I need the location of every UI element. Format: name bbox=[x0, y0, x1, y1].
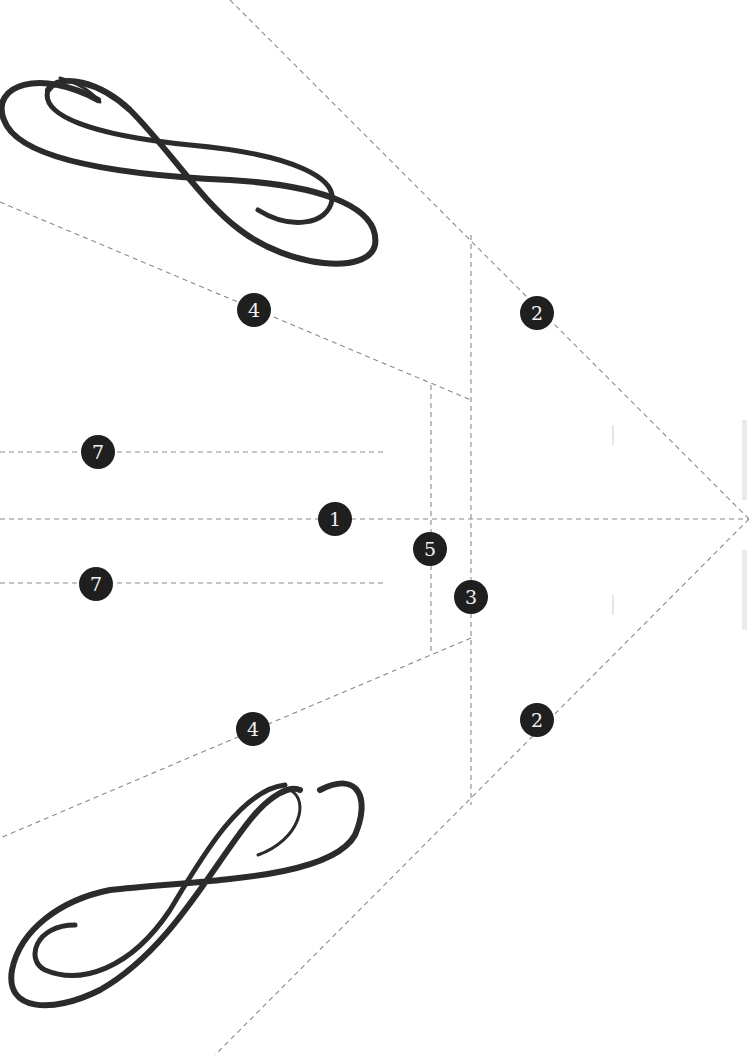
fold-line-4-lower bbox=[0, 638, 471, 838]
marker-2-upper: 2 bbox=[520, 296, 554, 330]
marker-label: 4 bbox=[248, 299, 260, 321]
marker-4-lower: 4 bbox=[236, 712, 270, 746]
marker-7-upper: 7 bbox=[81, 435, 115, 469]
fold-line-4-upper bbox=[0, 202, 471, 400]
marker-5: 5 bbox=[413, 532, 447, 566]
flourish-bottom bbox=[11, 784, 361, 1006]
paper-texture bbox=[612, 420, 747, 630]
marker-label: 7 bbox=[90, 573, 102, 595]
marker-label: 2 bbox=[531, 709, 543, 731]
marker-label: 3 bbox=[465, 586, 477, 608]
flourish-top bbox=[2, 78, 376, 264]
marker-label: 1 bbox=[329, 508, 341, 530]
marker-2-lower: 2 bbox=[520, 703, 554, 737]
fold-diagram: 1 2 2 3 4 4 5 7 7 bbox=[0, 0, 749, 1055]
marker-1: 1 bbox=[318, 502, 352, 536]
fold-lines bbox=[0, 0, 749, 1055]
marker-label: 2 bbox=[531, 302, 543, 324]
marker-label: 7 bbox=[92, 441, 104, 463]
marker-label: 5 bbox=[424, 538, 436, 560]
marker-3: 3 bbox=[454, 580, 488, 614]
marker-label: 4 bbox=[247, 718, 259, 740]
marker-4-upper: 4 bbox=[237, 293, 271, 327]
marker-7-lower: 7 bbox=[79, 567, 113, 601]
